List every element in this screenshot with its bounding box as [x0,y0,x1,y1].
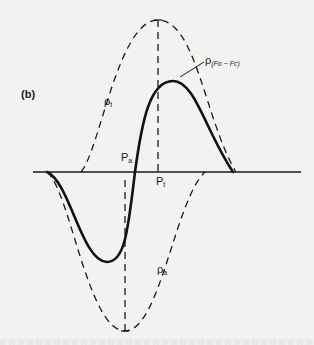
panel-label: (b) [21,89,35,100]
page-edge-bleed [0,339,314,345]
difference-density-diagram [0,0,314,345]
pt-subscript: t [163,181,165,188]
rho-t-subscript: t [110,101,112,108]
rho-diff-subscript: (Fo − Fc) [211,60,240,67]
rho-a-subscript: a [163,269,167,276]
pa-subscript: a [128,157,132,164]
rho-a-label: ρa [157,264,167,276]
rho-a-curve [47,172,205,331]
rho-diff-leader-line [180,62,204,77]
rho-t-label: ρt [104,96,112,108]
rho-diff-label: ρ(Fo − Fc) [205,55,240,67]
pt-label: Pt [156,176,165,188]
pa-label: Pa [121,152,132,164]
